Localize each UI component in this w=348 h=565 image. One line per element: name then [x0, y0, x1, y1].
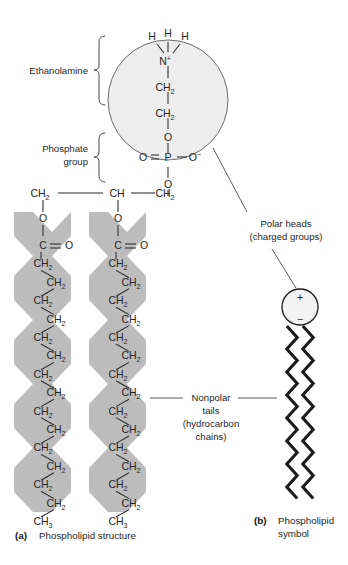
chain-1-ester-oxygen: O	[39, 212, 47, 224]
hydrogen-atom-center: H	[164, 27, 172, 39]
phospholipid-figure: H H H N+ CH2 CH2 O O P O− O	[0, 0, 348, 565]
nonpolar-tails-line3: (hydrocarbon	[183, 418, 240, 429]
polar-heads-line2: (charged groups)	[249, 231, 322, 242]
bracket-group	[94, 36, 105, 182]
hydrogen-atom-left: H	[148, 30, 156, 42]
phosphate-group-label-line1: Phosphate	[42, 143, 88, 154]
glycerol-backbone-bonds	[43, 193, 155, 212]
positive-charge-label: +	[297, 291, 303, 303]
glycerol-backbone-labels: CH2 CH CH2	[30, 187, 174, 202]
panel-b-marker: (b)	[254, 515, 267, 526]
polar-heads-annotation: Polar heads (charged groups)	[249, 218, 322, 242]
panel-a-marker: (a)	[15, 530, 27, 541]
phosphate-double-bond-oxygen: O	[139, 151, 147, 163]
bracket-labels: Ethanolamine Phosphate group	[29, 65, 88, 167]
phosphate-group-label-line2: group	[63, 156, 88, 167]
chain-2-carbonyl-oxygen: O	[140, 239, 148, 251]
captions: (a) Phospholipid structure (b) Phospholi…	[15, 515, 334, 541]
polar-heads-leader-upper	[213, 148, 247, 212]
panel-a-caption: Phospholipid structure	[39, 530, 136, 541]
hydrogen-atom-right: H	[181, 30, 189, 42]
chain-2-ester-oxygen: O	[114, 212, 122, 224]
phosphate-bracket	[94, 133, 105, 182]
glycerol-carbon-2: CH	[109, 187, 124, 199]
nonpolar-tails-line2: tails	[202, 405, 219, 416]
glycerol-carbon-1: CH2	[30, 187, 49, 202]
symbol-tail-1	[287, 326, 297, 499]
phosphate-ester-oxygen: O	[164, 131, 172, 143]
phosphate-anion-oxygen: O−	[189, 151, 201, 163]
chain-2-terminal-methyl: CH3	[108, 515, 127, 530]
nonpolar-tails-line4: chains)	[196, 431, 227, 442]
panel-b-caption-line1: Phospholipid	[278, 515, 334, 526]
phospholipid-symbol-tails	[287, 326, 313, 499]
ethanolamine-bracket	[94, 36, 105, 105]
chain-2-carbonyl-carbon: C	[114, 239, 122, 251]
chain-1-terminal-methyl: CH3	[33, 515, 52, 530]
panel-b-caption-line2: symbol	[278, 528, 309, 539]
symbol-tail-2	[303, 326, 313, 499]
negative-charge-label: −	[297, 313, 303, 325]
nonpolar-tails-annotation: Nonpolar tails (hydrocarbon chains)	[183, 392, 240, 442]
phosphorus-atom: P	[164, 151, 171, 163]
nonpolar-tails-line1: Nonpolar	[192, 392, 232, 403]
polar-heads-line1: Polar heads	[260, 218, 311, 229]
chain-1-carbonyl-carbon: C	[39, 239, 47, 251]
phospholipid-diagram-svg: H H H N+ CH2 CH2 O O P O− O	[0, 0, 348, 565]
polar-heads-leader-lower	[272, 249, 296, 288]
chain-1-carbonyl-oxygen: O	[65, 239, 73, 251]
ethanolamine-label: Ethanolamine	[29, 65, 88, 76]
